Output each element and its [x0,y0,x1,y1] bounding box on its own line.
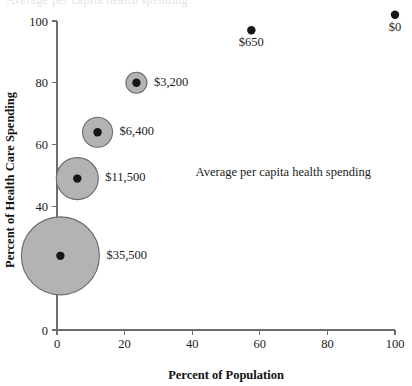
data-points-layer: $35,500$11,500$6,400$3,200$650$0 [21,11,401,295]
chart-annotation: Average per capita health spending [196,165,372,179]
x-tick-label: 80 [321,337,334,351]
y-tick-label: 60 [36,138,49,152]
y-axis-title: Percent of Health Care Spending [3,91,17,268]
x-tick-label: 100 [386,337,405,351]
bubble-center-dot [73,174,81,182]
point-value-label: $0 [389,20,402,34]
data-point[interactable]: $650 [239,26,264,49]
x-tick-label: 20 [118,337,131,351]
plain-point-dot[interactable] [391,11,399,19]
y-tick-label: 100 [29,15,48,29]
x-tick-label: 60 [254,337,267,351]
x-axis-title: Percent of Population [168,368,284,382]
y-tick-label: 80 [36,76,49,90]
data-point[interactable]: $11,500 [56,158,145,200]
data-point[interactable]: $6,400 [83,117,154,147]
x-tick-label: 40 [186,337,199,351]
annotations-layer: Average per capita health spending [196,165,372,179]
point-value-label: $11,500 [105,170,145,184]
plot-canvas: 020406080100 020406080100 $35,500$11,500… [0,0,412,386]
data-point[interactable]: $35,500 [21,217,147,295]
data-point[interactable]: $3,200 [126,72,188,93]
point-value-label: $650 [239,35,264,49]
x-axis-ticks: 020406080100 [54,330,405,351]
y-tick-label: 40 [36,200,49,214]
y-tick-label: 0 [42,324,48,338]
bubble-center-dot [93,128,101,136]
plain-point-dot[interactable] [247,26,255,34]
bubble-center-dot [132,79,140,87]
point-value-label: $6,400 [120,124,154,138]
point-value-label: $35,500 [106,248,147,262]
bubble-chart-figure: Average per capita health spending 02040… [0,0,412,386]
x-tick-label: 0 [54,337,60,351]
bubble-center-dot [56,252,64,260]
data-point[interactable]: $0 [389,11,402,34]
x-axis: 020406080100 [54,330,405,351]
point-value-label: $3,200 [154,75,188,89]
